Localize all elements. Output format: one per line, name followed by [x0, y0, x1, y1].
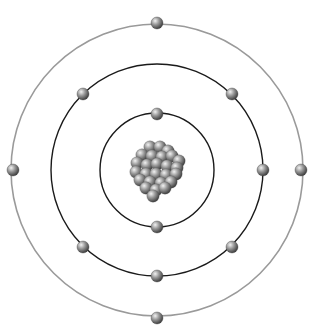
electron — [7, 164, 19, 176]
electron — [295, 164, 307, 176]
electron — [226, 241, 238, 253]
atom-diagram — [0, 0, 321, 332]
nucleon — [147, 190, 159, 202]
electron — [151, 312, 163, 324]
electron — [257, 164, 269, 176]
nucleus — [130, 141, 185, 202]
electron — [226, 88, 238, 100]
electron — [151, 270, 163, 282]
electron — [151, 108, 163, 120]
electron — [151, 17, 163, 29]
electron — [77, 88, 89, 100]
electron — [77, 241, 89, 253]
electron — [151, 221, 163, 233]
nucleon — [159, 182, 171, 194]
